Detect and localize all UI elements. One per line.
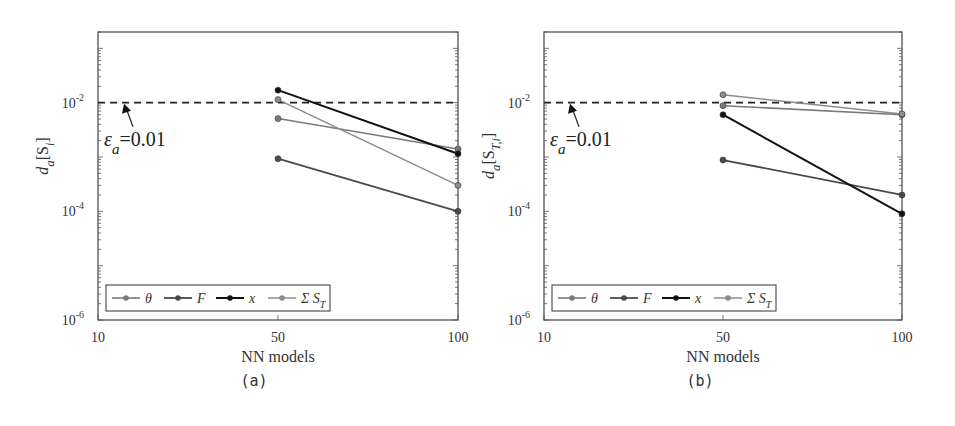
chart-b-svg: 105010010-210-410-6NN modelsda[ST,i]εa=0…	[446, 0, 924, 426]
series-line-1	[278, 159, 458, 212]
legend-label: x	[694, 291, 702, 306]
y-tick-label: 10-6	[62, 309, 84, 328]
legend-marker	[673, 295, 679, 301]
legend-marker	[175, 295, 181, 301]
legend-label: θ	[591, 291, 598, 306]
data-marker	[899, 192, 905, 198]
legend-marker	[621, 295, 627, 301]
x-axis-label: NN models	[686, 348, 759, 365]
panel-b: 105010010-210-410-6NN modelsda[ST,i]εa=0…	[446, 0, 924, 426]
y-axis-label: da[Si]	[34, 137, 57, 174]
series-line-2	[723, 115, 902, 214]
y-tick-label: 10-2	[508, 92, 530, 111]
caption-b: (b)	[670, 372, 730, 390]
data-marker	[275, 97, 281, 103]
legend-label: θ	[145, 291, 152, 306]
arrow-head-icon	[122, 104, 131, 114]
legend-marker	[569, 295, 575, 301]
x-tick-label: 50	[271, 330, 285, 345]
data-marker	[720, 92, 726, 98]
y-tick-label: 10-6	[508, 309, 530, 328]
panel-a: 105010010-210-410-6NN modelsda[Si]εa=0.0…	[0, 0, 478, 426]
legend-label: F	[642, 291, 652, 306]
arrow-head-icon	[568, 104, 577, 114]
data-marker	[720, 103, 726, 109]
x-tick-label: 100	[892, 330, 913, 345]
x-axis-label: NN models	[241, 348, 314, 365]
y-tick-label: 10-4	[508, 200, 530, 219]
legend-marker	[227, 295, 233, 301]
y-tick-label: 10-4	[62, 200, 84, 219]
y-tick-label: 10-2	[62, 92, 84, 111]
x-tick-label: 10	[91, 330, 105, 345]
x-tick-label: 10	[537, 330, 551, 345]
data-marker	[720, 157, 726, 163]
series-line-3	[278, 100, 458, 186]
threshold-annotation: εa=0.01	[104, 128, 166, 157]
legend-label: F	[196, 291, 206, 306]
data-marker	[720, 112, 726, 118]
threshold-annotation: εa=0.01	[550, 128, 612, 157]
data-marker	[275, 116, 281, 122]
chart-a-svg: 105010010-210-410-6NN modelsda[Si]εa=0.0…	[0, 0, 478, 426]
series-line-3	[723, 95, 902, 114]
series-line-2	[278, 90, 458, 154]
plot-frame	[544, 32, 902, 320]
x-tick-label: 50	[716, 330, 730, 345]
plot-frame	[98, 32, 458, 320]
y-axis-label: da[ST,i]	[480, 133, 503, 179]
data-marker	[275, 87, 281, 93]
data-marker	[275, 156, 281, 162]
series-line-0	[723, 106, 902, 115]
legend-marker	[279, 295, 285, 301]
legend-marker	[123, 295, 129, 301]
data-marker	[899, 111, 905, 117]
data-marker	[899, 211, 905, 217]
legend-label: x	[248, 291, 256, 306]
legend-marker	[725, 295, 731, 301]
caption-a: (a)	[224, 372, 284, 390]
